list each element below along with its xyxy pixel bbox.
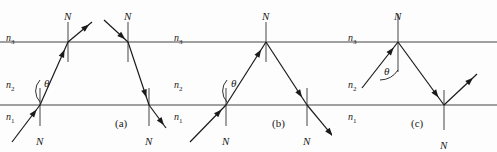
exit-ray-bottom <box>307 105 332 140</box>
normal-label-normal-top-left: N <box>64 11 71 22</box>
medium-label-n2: n2 <box>6 80 15 93</box>
normal-label-normal-bottom-right: N <box>145 136 152 147</box>
refracted-ray-mid-arrowhead <box>254 50 261 58</box>
refracted-ray-mid-arrowhead <box>59 50 65 58</box>
reflected-ray-downward-arrowhead <box>431 89 438 97</box>
normal-label-normal-top: N <box>262 11 269 22</box>
refracted-ray-right-arrowhead <box>141 89 147 98</box>
panel-a: n3n2n1NNNNθ <box>0 0 168 152</box>
theta-label: θ <box>231 78 236 89</box>
medium-subscript: 3 <box>353 38 357 46</box>
panel-b: n3n2n1NNNθ <box>168 0 332 152</box>
medium-label-n2: n2 <box>348 80 357 93</box>
theta-angle-arc <box>36 80 40 102</box>
panel-caption-b: (b) <box>272 118 285 129</box>
medium-label-n2: n2 <box>174 80 183 93</box>
normal-label-normal-bottom-right: N <box>303 136 310 147</box>
medium-label-n1: n1 <box>6 112 15 125</box>
total-internal-reflected-ray-arrowhead <box>295 89 302 97</box>
medium-label-n1: n1 <box>174 112 183 125</box>
normal-label-normal-bottom: N <box>440 140 447 151</box>
medium-subscript: 3 <box>11 38 15 46</box>
panel-c: n3n2n1NNθ <box>332 0 497 152</box>
theta-label: θ <box>384 66 389 77</box>
medium-label-n3: n3 <box>6 33 15 46</box>
medium-subscript: 1 <box>11 117 15 125</box>
medium-subscript: 1 <box>179 117 183 125</box>
exit-ray-bottom-right-arrowhead <box>157 117 164 125</box>
panel-caption-a: (a) <box>115 118 127 129</box>
normal-label-normal-bottom-left: N <box>36 136 43 147</box>
medium-label-n3: n3 <box>174 33 183 46</box>
medium-subscript: 2 <box>353 85 357 93</box>
medium-subscript: 3 <box>179 38 183 46</box>
theta-label: θ <box>44 78 49 89</box>
medium-subscript: 2 <box>179 85 183 93</box>
medium-subscript: 2 <box>11 85 15 93</box>
panel-caption-c: (c) <box>411 118 423 129</box>
normal-label-normal-top: N <box>394 11 401 22</box>
normal-label-normal-top-right: N <box>124 11 131 22</box>
medium-label-n3: n3 <box>348 33 357 46</box>
optics-ray-diagram-figure: n3n2n1NNNNθn3n2n1NNNθn3n2n1NNθ(a)(b)(c) <box>0 0 497 152</box>
normal-label-normal-bottom-left: N <box>222 136 229 147</box>
medium-label-n1: n1 <box>348 112 357 125</box>
medium-subscript: 1 <box>353 117 357 125</box>
incident-ray-arrowhead <box>29 109 36 117</box>
